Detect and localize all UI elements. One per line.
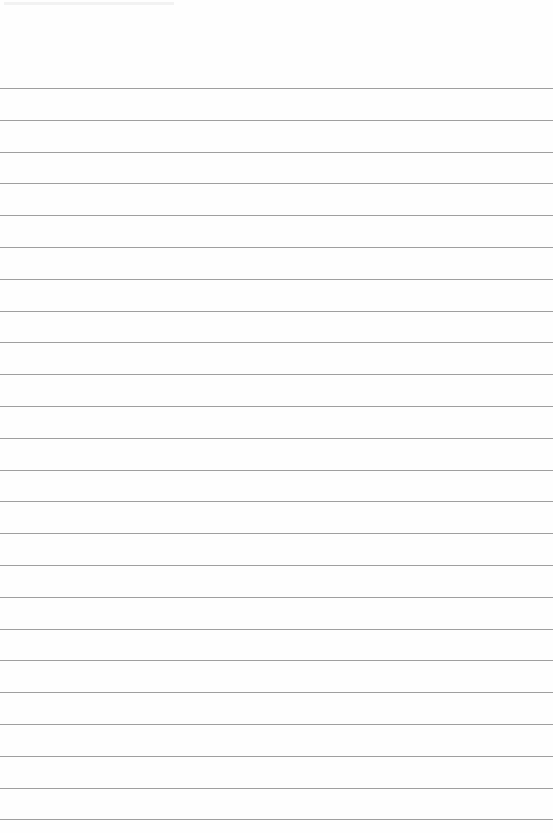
ruled-line [0, 660, 553, 661]
ruled-line [0, 406, 553, 407]
ruled-line [0, 788, 553, 789]
ruled-line [0, 565, 553, 566]
ruled-line [0, 692, 553, 693]
ruled-line [0, 438, 553, 439]
ruled-line [0, 120, 553, 121]
ruled-line [0, 756, 553, 757]
ruled-line [0, 374, 553, 375]
ruled-line [0, 183, 553, 184]
ruled-line [0, 819, 553, 820]
ruled-line [0, 501, 553, 502]
ruled-line [0, 152, 553, 153]
top-edge-smudge [4, 2, 174, 5]
ruled-line [0, 247, 553, 248]
ruled-line [0, 597, 553, 598]
ruled-line [0, 533, 553, 534]
ruled-line [0, 629, 553, 630]
ruled-line [0, 470, 553, 471]
ruled-line [0, 724, 553, 725]
ruled-line [0, 215, 553, 216]
ruled-line [0, 311, 553, 312]
lined-paper-sheet [0, 0, 553, 833]
ruled-line [0, 88, 553, 89]
ruled-line [0, 279, 553, 280]
ruled-line [0, 342, 553, 343]
